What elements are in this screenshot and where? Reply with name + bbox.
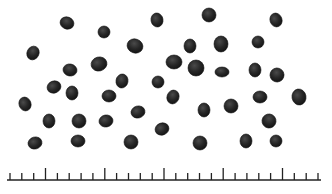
seed	[150, 12, 164, 28]
seed	[253, 91, 267, 103]
seed	[45, 79, 62, 95]
seed	[188, 60, 204, 76]
seed-photo-canvas	[0, 0, 332, 194]
seed	[268, 11, 284, 28]
seed	[214, 36, 228, 52]
seed	[202, 8, 216, 22]
seed	[153, 121, 170, 137]
seed-group	[17, 8, 307, 151]
seed	[193, 136, 207, 150]
seed	[166, 55, 182, 69]
seed	[27, 135, 44, 150]
seed	[130, 104, 147, 119]
seed	[89, 55, 108, 73]
seed	[198, 103, 210, 117]
seed	[252, 36, 264, 48]
seed	[125, 37, 145, 56]
seed	[115, 73, 129, 89]
seed	[165, 88, 181, 105]
seed	[17, 95, 33, 112]
seed	[249, 63, 261, 77]
seed	[25, 44, 42, 62]
seed	[102, 90, 116, 102]
seed	[66, 86, 78, 100]
scale-ruler	[7, 168, 321, 180]
seed	[62, 63, 78, 77]
seed-photo	[0, 0, 332, 194]
seed	[215, 67, 229, 77]
seed	[270, 135, 282, 147]
seed	[240, 134, 252, 148]
seed	[152, 76, 164, 88]
seed	[224, 99, 238, 113]
seed	[58, 15, 75, 31]
seed	[124, 135, 138, 149]
seed	[98, 26, 110, 38]
seed	[291, 88, 308, 106]
seed	[259, 111, 278, 130]
seed	[43, 114, 55, 128]
seed	[268, 66, 286, 84]
seed	[184, 39, 196, 53]
seed	[98, 114, 114, 128]
seed	[72, 114, 86, 128]
seed	[71, 135, 85, 147]
